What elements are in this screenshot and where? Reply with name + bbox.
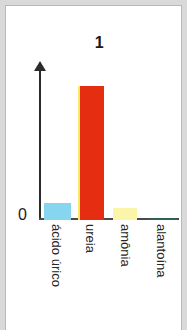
y-axis-line (39, 68, 41, 220)
bar-ureia (78, 86, 104, 220)
y-axis-zero-tick-label: 0 (18, 207, 27, 223)
bar-acido-urico (44, 203, 71, 220)
x-axis-label-acido-urico: ácido úrico (48, 224, 64, 329)
bar-amonia (113, 208, 137, 220)
x-axis-label-ureia: ureia (82, 224, 98, 329)
bar-alantoina (149, 218, 177, 220)
plot-area: 0 ácido úrico ureia amônia alantoína (6, 6, 182, 330)
figure-card: 1 0 ácido úrico ureia amônia alantoína (5, 5, 182, 330)
x-axis-label-alantoina: alantoína (153, 224, 169, 329)
x-axis-label-amonia: amônia (117, 224, 133, 329)
